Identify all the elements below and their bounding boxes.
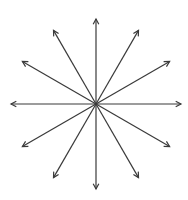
arrows-group bbox=[11, 19, 181, 189]
arrow-90deg bbox=[93, 19, 99, 104]
arrow-270deg bbox=[93, 104, 99, 189]
radial-arrows-diagram bbox=[0, 0, 188, 200]
arrow-330deg bbox=[96, 104, 170, 147]
arrow-30deg bbox=[96, 62, 170, 105]
arrow-210deg bbox=[22, 104, 96, 147]
arrow-240deg bbox=[54, 104, 97, 178]
arrow-120deg bbox=[54, 30, 97, 104]
arrow-150deg bbox=[22, 62, 96, 105]
arrow-60deg bbox=[96, 30, 139, 104]
arrow-180deg bbox=[11, 101, 96, 107]
arrow-0deg bbox=[96, 101, 181, 107]
arrow-300deg bbox=[96, 104, 139, 178]
